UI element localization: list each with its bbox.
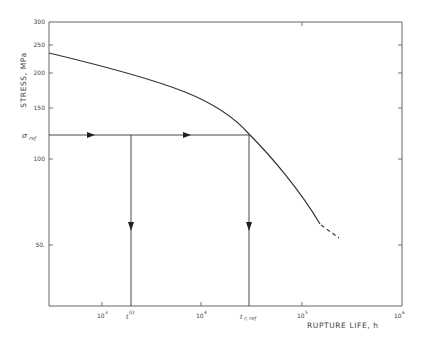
- arrow-right-icon: [183, 132, 191, 138]
- x-tick-base: 10: [97, 312, 105, 319]
- y-axis-title: STRESS, MPa: [19, 52, 28, 107]
- x-tick-1e4: 10 4: [196, 310, 207, 319]
- y-tick-150: 150: [34, 104, 46, 111]
- arrow-down-icon: [128, 222, 134, 231]
- y-tick-200: 200: [34, 69, 46, 76]
- extrapolation-dashed: [321, 225, 339, 238]
- t-ref-label: t r, ref: [240, 313, 257, 322]
- t-symbol: t: [240, 313, 243, 321]
- y-tick-50: 50.: [35, 241, 45, 248]
- x-tick-1e3: 10 3: [97, 310, 108, 319]
- x-axis-ticks: [102, 22, 302, 306]
- stress-rupture-chart: 300 250 200 150 100 50. 10 3 10 4 10 5 1…: [0, 0, 424, 341]
- t-i-label: t (i): [126, 309, 135, 321]
- t-subscript: r, ref: [244, 315, 257, 322]
- y-tick-100: 100: [34, 155, 46, 162]
- x-axis-title: RUPTURE LIFE, h: [307, 321, 379, 330]
- y-tick-250: 250: [34, 41, 46, 48]
- x-tick-exp: 5: [305, 310, 308, 315]
- x-tick-base: 10: [297, 312, 305, 319]
- x-tick-exp: 3: [105, 310, 108, 315]
- sigma-symbol: σ: [22, 131, 28, 140]
- x-tick-exp: 6: [402, 310, 405, 315]
- sigma-subscript: ref: [29, 135, 37, 142]
- plot-frame: [49, 22, 402, 306]
- t-superscript: (i): [129, 309, 135, 315]
- x-tick-base: 10: [196, 312, 204, 319]
- x-tick-base: 10: [394, 312, 402, 319]
- arrow-right-icon: [87, 132, 95, 138]
- x-tick-1e6: 10 6: [394, 310, 405, 319]
- x-tick-exp: 4: [204, 310, 207, 315]
- stress-rupture-curve: [49, 53, 320, 224]
- x-tick-1e5: 10 5: [297, 310, 308, 319]
- y-axis-ticks: [49, 45, 402, 245]
- arrow-down-icon: [246, 222, 252, 231]
- y-tick-300: 300: [34, 18, 46, 25]
- sigma-ref-label: σ ref: [22, 131, 37, 142]
